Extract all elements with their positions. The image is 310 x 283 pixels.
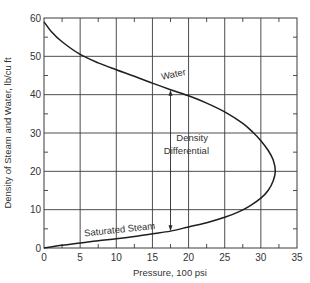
curves (44, 22, 275, 248)
x-tick-label: 0 (41, 252, 47, 263)
x-axis-title: Pressure, 100 psi (133, 267, 207, 278)
x-tick-labels: 05101520253035 (41, 252, 303, 263)
y-axis-title: Density of Steam and Water, lb/cu ft (2, 57, 13, 209)
y-tick-label: 50 (30, 51, 42, 62)
x-tick-label: 35 (291, 252, 303, 263)
y-tick-label: 20 (30, 166, 42, 177)
y-tick-label: 30 (30, 128, 42, 139)
annotation-label: Density (176, 132, 208, 143)
y-tick-label: 60 (30, 13, 42, 24)
x-tick-label: 15 (147, 252, 159, 263)
y-tick-label: 10 (30, 204, 42, 215)
density-pressure-chart: 05101520253035 0102030405060 WaterSatura… (0, 0, 310, 283)
x-tick-label: 20 (183, 252, 195, 263)
x-tick-label: 10 (111, 252, 123, 263)
saturation-curve (44, 22, 275, 248)
x-tick-label: 5 (77, 252, 83, 263)
annotations: WaterSaturated SteamDensityDifferential (84, 66, 210, 238)
annotation-label: Water (160, 66, 187, 82)
x-tick-label: 30 (255, 252, 267, 263)
y-tick-label: 40 (30, 89, 42, 100)
x-tick-label: 25 (219, 252, 231, 263)
y-tick-labels: 0102030405060 (30, 13, 42, 254)
y-tick-label: 0 (35, 243, 41, 254)
